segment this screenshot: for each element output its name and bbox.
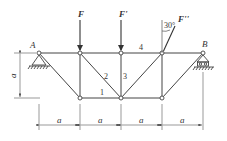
diagonal-member [39,53,80,98]
dimension-label: a [98,115,103,125]
member-1-label: 1 [100,88,104,97]
forces [80,20,175,51]
joint [78,51,82,55]
angle-label: 30° [164,21,175,30]
dimension-label: a [57,115,62,125]
support-B-label: B [202,39,208,49]
roller-support-icon [193,55,214,70]
member-2-label: 2 [104,72,108,81]
diagonal-member [121,53,162,98]
support-A-label: A [29,40,36,50]
joint [119,96,123,100]
force-F-label: F [77,9,84,19]
truss-diagram: F F' F'' 30° A B 1 2 3 4 a a a a a [0,0,227,141]
dimension-label: a [180,115,185,125]
angle-arc-icon [162,30,170,31]
dimension-label: a [139,115,144,125]
member-3-label: 3 [123,72,127,81]
force-F1-label: F' [118,9,128,19]
vertical-dimension-label: a [8,73,18,78]
joint [78,96,82,100]
truss-members [39,53,203,98]
joint [160,96,164,100]
force-F2-label: F'' [177,14,190,24]
member-4-label: 4 [139,43,143,52]
diagonal-member [162,53,203,98]
joint [119,51,123,55]
